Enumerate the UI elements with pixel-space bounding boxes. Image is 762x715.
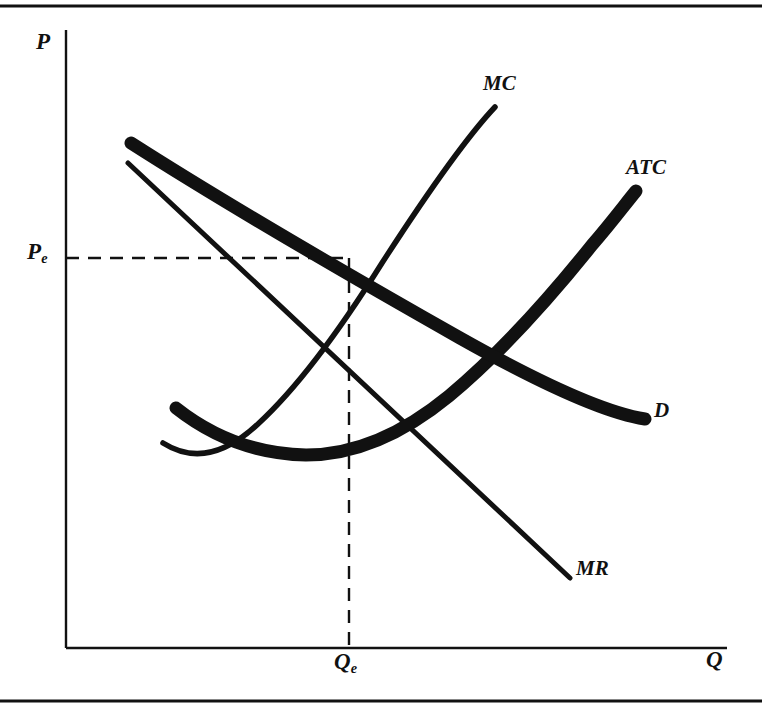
y-axis-label: P (36, 30, 50, 53)
price-equilibrium-tick-label: Pe (27, 240, 48, 265)
curve-label-atc: ATC (626, 157, 666, 178)
curve-label-mc: MC (483, 73, 516, 94)
curve-label-mr: MR (576, 558, 609, 579)
diagram-canvas (0, 0, 762, 715)
price-tick-base: P (27, 239, 41, 264)
x-axis-label: Q (706, 648, 723, 671)
quantity-tick-base: Q (334, 649, 351, 674)
curve-label-d: D (654, 400, 669, 421)
curve-mr (128, 163, 570, 578)
price-tick-subscript: e (41, 250, 47, 266)
quantity-tick-subscript: e (351, 660, 357, 676)
economics-diagram-figure: P Q Pe Qe MC ATC D MR (0, 0, 762, 715)
quantity-equilibrium-tick-label: Qe (334, 650, 357, 675)
